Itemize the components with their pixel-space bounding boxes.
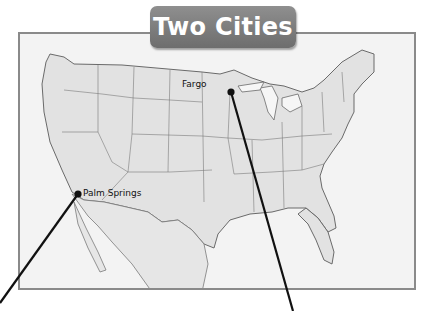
- palm-springs-label: Palm Springs: [83, 188, 141, 198]
- us-map: [18, 32, 416, 290]
- us-map-graphic: [20, 34, 416, 290]
- fargo-label: Fargo: [182, 79, 207, 89]
- map-title: Two Cities: [150, 6, 296, 48]
